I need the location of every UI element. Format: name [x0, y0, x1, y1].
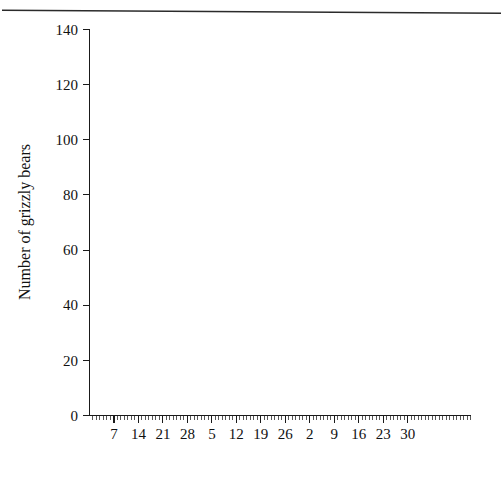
y-tick-label: 60: [63, 242, 78, 258]
x-tick-label: 14: [131, 426, 147, 442]
y-tick-label: 0: [71, 408, 79, 424]
x-tick-label: 5: [208, 426, 216, 442]
y-tick-label: 140: [56, 22, 79, 38]
x-tick-label: 19: [253, 426, 268, 442]
x-tick-label: 21: [155, 426, 170, 442]
y-tick-label: 120: [56, 77, 79, 93]
x-tick-label: 12: [229, 426, 244, 442]
x-tick-label: 30: [400, 426, 415, 442]
y-axis-title: Number of grizzly bears: [16, 144, 34, 300]
x-axis-major-ticks: [114, 416, 408, 424]
grizzly-bear-scatter-chart: Number of grizzly bears 0204060801001201…: [0, 0, 503, 489]
x-tick-label: 26: [278, 426, 294, 442]
y-tick-label: 80: [63, 187, 78, 203]
x-axis-minor-ticks: [93, 416, 471, 421]
x-tick-label: 16: [351, 426, 367, 442]
x-tick-label: 7: [110, 426, 118, 442]
y-tick-label: 100: [56, 132, 79, 148]
x-tick-label: 2: [306, 426, 314, 442]
y-axis-ticks: 020406080100120140: [56, 22, 90, 424]
x-tick-label: 23: [376, 426, 391, 442]
x-axis-tick-labels: 7142128512192629162330: [110, 426, 415, 442]
x-tick-label: 9: [331, 426, 339, 442]
x-tick-label: 28: [180, 426, 195, 442]
y-tick-label: 40: [63, 297, 78, 313]
y-tick-label: 20: [63, 353, 78, 369]
